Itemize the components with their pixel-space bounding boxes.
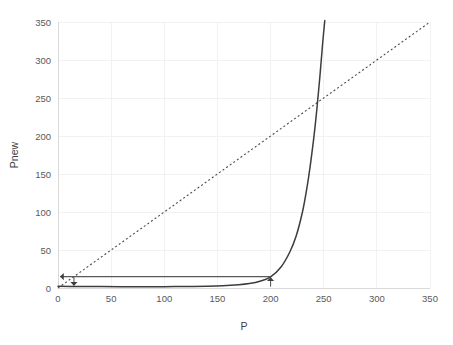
y-tick-label: 200 [35, 131, 51, 142]
y-tick-label: 50 [40, 245, 51, 256]
y-tick-label: 350 [35, 17, 51, 28]
chart-background [0, 0, 453, 345]
x-tick-label: 200 [263, 293, 279, 304]
y-tick-label: 0 [46, 283, 51, 294]
x-tick-label: 300 [369, 293, 385, 304]
y-tick-label: 250 [35, 93, 51, 104]
x-tick-label: 150 [209, 293, 225, 304]
y-tick-label: 150 [35, 169, 51, 180]
y-tick-label: 300 [35, 55, 51, 66]
x-tick-label: 0 [55, 293, 60, 304]
x-tick-label: 350 [422, 293, 438, 304]
y-axis-title: Pnew [8, 141, 20, 168]
chart-canvas: 050100150200250300350 050100150200250300… [0, 0, 453, 345]
x-tick-label: 250 [316, 293, 332, 304]
x-tick-label: 50 [106, 293, 117, 304]
x-tick-label: 100 [156, 293, 172, 304]
x-axis-title: P [240, 320, 247, 332]
chart-container: 050100150200250300350 050100150200250300… [0, 0, 453, 345]
y-tick-label: 100 [35, 207, 51, 218]
